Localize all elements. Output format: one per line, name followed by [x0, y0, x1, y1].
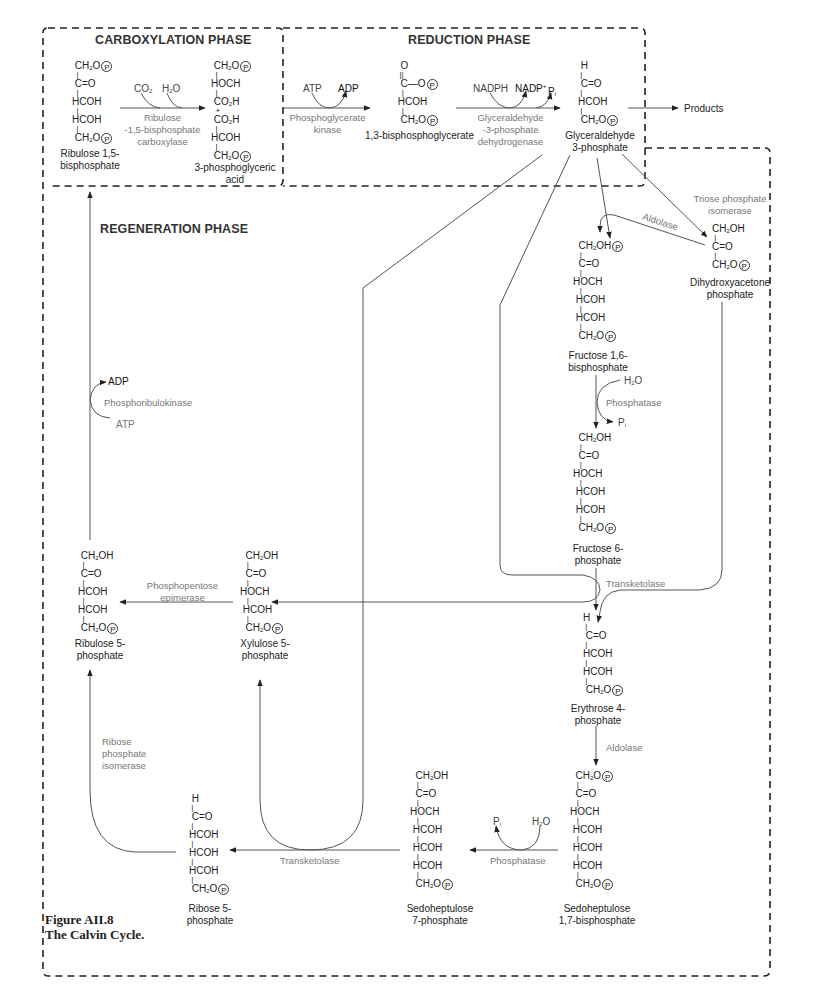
figure-title: The Calvin Cycle.: [45, 927, 144, 942]
e4p-structure: H | C=O | HCOH | HCOH | CH2OP: [583, 612, 623, 695]
s7p-name: Sedoheptulose7-phosphate: [395, 903, 485, 927]
xu5p-structure: CH2OH | C=O | HOCH | HCOH | CH2OP: [240, 550, 283, 633]
atp-label-2: ATP: [116, 419, 135, 430]
pi-label-1: Pi: [548, 86, 556, 97]
prk-enzyme: Phosphoribulokinase: [104, 397, 192, 409]
r5p-name: Ribose 5-phosphate: [175, 903, 245, 927]
fbp-structure: CH2OHP | C=O | HOCH | HCOH | HCOH | CH2O…: [573, 240, 623, 341]
nadp-label: NADP+: [515, 83, 546, 94]
calvin-cycle-diagram: CARBOXYLATION PHASE REDUCTION PHASE REGE…: [0, 0, 815, 995]
rubisco-enzyme: Ribulose-1,5-bisphosphatecarboxylase: [120, 112, 205, 148]
s7p-structure: CH2OH | C=O | HOCH | HCOH | HCOH | HCOH …: [410, 770, 453, 889]
ru5p-structure: CH2OH | C=O | HCOH | HCOH | CH2OP: [78, 550, 118, 633]
f6p-structure: CH2OH | C=O | HOCH | HCOH | HCOH | CH2OP: [573, 432, 616, 533]
dhap-structure: CH2OH | C=O | CH2OP: [712, 223, 750, 270]
f6p-name: Fructose 6-phosphate: [563, 543, 633, 567]
sbp-name: Sedoheptulose1,7-bisphosphate: [552, 903, 642, 927]
e4p-name: Erythrose 4-phosphate: [563, 703, 633, 727]
rpi-enzyme: Ribosephosphateisomerase: [102, 736, 146, 772]
rubp-name: Ribulose 1,5-bisphosphate: [50, 148, 130, 172]
rubp-structure: CH2OP | C=O | HCOH | HCOH | CH2OP: [72, 60, 112, 143]
tpi-enzyme: Triose phosphateisomerase: [690, 193, 770, 217]
pi-label-2: Pi: [618, 417, 626, 428]
g3p-structure: H | C=O | HCOH | CH2OP: [578, 60, 618, 125]
reduction-phase-label: REDUCTION PHASE: [408, 33, 530, 47]
r5p-structure: H | C=O | HCOH | HCOH | HCOH | CH2OP: [189, 793, 229, 894]
sbpase-enzyme: Phosphatase: [490, 855, 545, 867]
ru5p-name: Ribulose 5-phosphate: [65, 638, 135, 662]
g3p-name: Glyceraldehyde3-phosphate: [565, 130, 635, 154]
fbp-name: Fructose 1,6-bisphosphate: [563, 350, 633, 374]
pga-name: 3-phosphoglycericacid: [190, 162, 280, 186]
pi-label-3: Pi: [493, 816, 501, 827]
pgk-enzyme: Phosphoglyceratekinase: [285, 112, 370, 136]
regeneration-phase-label: REGENERATION PHASE: [100, 222, 248, 236]
epimerase-enzyme: Phosphopentoseepimerase: [140, 580, 225, 604]
atp-label-1: ATP: [303, 83, 322, 94]
adp-label-2: ADP: [108, 376, 129, 387]
transketolase-enzyme-2: Transketolase: [280, 855, 339, 867]
gapdh-enzyme: Glyceraldehyde-3-phosphatedehydrogenase: [468, 112, 553, 148]
figure-number: Figure AII.8: [45, 912, 144, 927]
co2-label: CO2: [134, 83, 152, 94]
transketolase-enzyme-1: Transketolase: [606, 578, 665, 590]
sbp-structure: CH2OP | C=O | HOCH | HCOH | HCOH | HCOH …: [570, 770, 613, 889]
fbpase-enzyme: Phosphatase: [606, 397, 661, 409]
products-label: Products: [684, 103, 723, 115]
bpg-name: 1,3-bisphosphoglycerate: [365, 130, 465, 142]
h2o-label-1: H2O: [162, 83, 180, 94]
aldolase-enzyme-2: Aldolase: [606, 742, 642, 754]
pga-structure: CH2OP | HOCH | CO2H + CO2H | HCOH | CH2O…: [211, 60, 251, 161]
carboxylation-phase-label: CARBOXYLATION PHASE: [95, 33, 252, 47]
h2o-label-2: H2O: [624, 375, 642, 386]
h2o-label-3: H2O: [532, 816, 550, 827]
dhap-name: Dihydroxyacetonephosphate: [690, 277, 770, 301]
bpg-structure: O || C—OP | HCOH | CH2OP: [395, 60, 438, 125]
adp-label-1: ADP: [338, 83, 359, 94]
xu5p-name: Xylulose 5-phosphate: [230, 638, 300, 662]
figure-caption: Figure AII.8 The Calvin Cycle.: [45, 912, 144, 942]
nadph-label: NADPH: [473, 83, 508, 94]
